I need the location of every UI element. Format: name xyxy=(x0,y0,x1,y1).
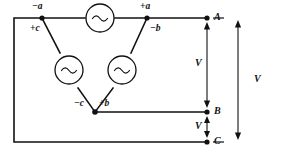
terminal-label-minus-c: −c xyxy=(74,99,84,109)
dimension-arrow-ab-up xyxy=(204,22,210,29)
circuit-diagram-figure: −a +c +a −b −c +b A B C V V V xyxy=(0,0,282,157)
terminal-label-minus-b: −b xyxy=(150,24,161,34)
terminal-label-minus-a: −a xyxy=(32,2,43,12)
return-wire-left-bottom xyxy=(14,18,207,142)
voltage-label-ab: V xyxy=(195,58,202,68)
voltage-label-bc: V xyxy=(195,121,202,131)
dimension-arrow-ac-up xyxy=(235,20,241,28)
dimension-arrow-ac-down xyxy=(235,132,241,140)
junction-dot-point-a xyxy=(204,15,209,20)
dimension-arrow-ab-down xyxy=(204,101,210,108)
dimension-arrow-bc-up xyxy=(204,116,210,123)
point-label-c: C xyxy=(214,136,221,146)
junction-dot-top-left xyxy=(39,15,44,20)
terminal-label-plus-a: +a xyxy=(140,2,150,12)
wire-topright-to-rightsource xyxy=(131,18,147,53)
junction-dot-point-b xyxy=(204,109,209,114)
voltage-label-ac: V xyxy=(254,74,261,84)
junction-dot-top-right xyxy=(144,15,149,20)
junction-dot-point-c xyxy=(204,139,209,144)
point-label-b: B xyxy=(214,106,221,116)
point-label-a: A xyxy=(214,12,221,22)
terminal-label-plus-c: +c xyxy=(30,24,40,34)
terminal-label-plus-b: +b xyxy=(99,99,109,109)
junction-dot-bottom xyxy=(92,109,98,115)
wire-topleft-to-leftsource xyxy=(42,18,60,53)
circuit-schematic-svg xyxy=(0,0,282,157)
dimension-arrow-bc-down xyxy=(204,131,210,138)
